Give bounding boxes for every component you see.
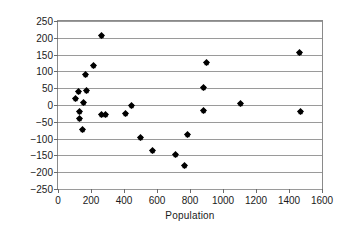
x-axis-tick [190, 189, 191, 193]
data-point [200, 107, 207, 114]
x-axis-tick-label: 400 [116, 195, 133, 206]
data-point [172, 151, 179, 158]
x-axis-tick [124, 189, 125, 193]
y-axis-tick-label: 0 [47, 100, 53, 111]
y-gridline [58, 122, 322, 123]
y-axis-tick-label: −200 [30, 167, 53, 178]
data-point [83, 87, 90, 94]
x-axis-tick [322, 189, 323, 193]
y-axis-tick [54, 38, 58, 39]
x-axis-tick [91, 189, 92, 193]
x-axis-tick-label: 1400 [278, 195, 300, 206]
x-axis-tick-label: 200 [83, 195, 100, 206]
x-axis-tick-label: 1000 [212, 195, 234, 206]
data-point [72, 95, 79, 102]
x-axis-tick [223, 189, 224, 193]
y-axis-tick [54, 105, 58, 106]
y-axis-tick-label: −100 [30, 133, 53, 144]
y-axis-tick-label: 200 [36, 32, 53, 43]
y-gridline [58, 38, 322, 39]
y-axis-tick [54, 139, 58, 140]
data-point [122, 110, 129, 117]
data-point [200, 84, 207, 91]
data-point [297, 108, 304, 115]
data-point [79, 126, 86, 133]
data-point [102, 111, 109, 118]
x-axis-tick [58, 189, 59, 193]
y-axis-tick [54, 122, 58, 123]
data-point [76, 108, 83, 115]
y-axis-tick-label: 100 [36, 66, 53, 77]
data-point [181, 162, 188, 169]
y-axis-tick [54, 155, 58, 156]
y-gridline [58, 88, 322, 89]
y-gridline [58, 155, 322, 156]
plot-area: −250−200−150−100−50050100150200250020040… [57, 20, 323, 190]
y-gridline [58, 21, 322, 22]
y-gridline [58, 172, 322, 173]
x-axis-tick [256, 189, 257, 193]
y-axis-tick [54, 172, 58, 173]
x-axis-tick [289, 189, 290, 193]
y-axis-tick-label: −50 [36, 116, 53, 127]
data-point [237, 100, 244, 107]
y-axis-tick-label: −250 [30, 184, 53, 195]
x-axis-title: Population [57, 210, 323, 221]
y-axis-tick-label: 50 [42, 83, 53, 94]
scatter-chart-figure: Residual Rooms −250−200−150−100−50050100… [0, 0, 361, 232]
y-gridline [58, 105, 322, 106]
x-axis-tick-label: 1200 [245, 195, 267, 206]
y-axis-tick-label: −150 [30, 150, 53, 161]
x-axis-tick-label: 1600 [311, 195, 333, 206]
data-point [75, 88, 82, 95]
data-point [203, 59, 210, 66]
x-axis-tick-label: 0 [55, 195, 61, 206]
data-point [137, 134, 144, 141]
data-point [149, 146, 156, 153]
y-axis-tick [54, 21, 58, 22]
x-axis-tick-label: 600 [149, 195, 166, 206]
x-axis-tick [157, 189, 158, 193]
y-axis-tick [54, 71, 58, 72]
y-axis-tick-label: 250 [36, 16, 53, 27]
y-gridline [58, 139, 322, 140]
data-point [90, 62, 97, 69]
x-axis-tick-label: 800 [182, 195, 199, 206]
y-gridline [58, 71, 322, 72]
y-axis-tick [54, 55, 58, 56]
data-point [183, 131, 190, 138]
y-axis-tick [54, 88, 58, 89]
data-point [128, 102, 135, 109]
y-gridline [58, 55, 322, 56]
y-axis-tick-label: 150 [36, 49, 53, 60]
